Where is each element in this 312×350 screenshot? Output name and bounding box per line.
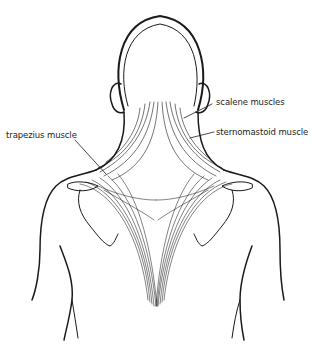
head-outline (119, 16, 204, 110)
sternomastoid-pointer (190, 132, 214, 138)
trapezius-pointer (75, 140, 106, 174)
label-trapezius-muscle: trapezius muscle (6, 130, 77, 140)
right-scapula (194, 190, 234, 246)
label-sternomastoid-muscle: sternomastoid muscle (216, 127, 308, 137)
label-scalene-muscles: scalene muscles (216, 97, 285, 107)
right-shoulder (224, 170, 284, 300)
trapezius-fibers (80, 174, 232, 306)
left-scapula (78, 190, 118, 246)
left-ear (110, 83, 124, 112)
anatomy-figure: scalene muscles sternomastoid muscle tra… (0, 0, 312, 350)
back-muscles-illustration (0, 0, 312, 350)
neck-muscle-fibers (98, 102, 222, 180)
left-shoulder (32, 170, 96, 300)
